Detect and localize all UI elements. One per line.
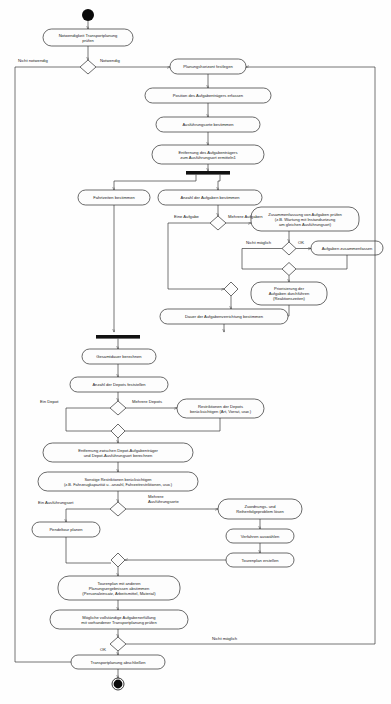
- merge-node-d4: [282, 263, 296, 276]
- join-bar-1: [96, 335, 140, 339]
- activity-node-a6: [78, 190, 150, 205]
- edge-d1-nicht-notwendig: [15, 67, 106, 662]
- edge-a9-to-d4: [296, 255, 347, 269]
- decision-node-d3: [282, 242, 296, 255]
- activity-node-a17: [32, 522, 100, 537]
- activity-node-a12: [82, 349, 156, 364]
- activity-node-a10: [251, 282, 327, 305]
- edge-d8-ein-ausfuehrungsort: [66, 509, 110, 522]
- decision-node-d10: [110, 637, 126, 651]
- merge-node-d7: [111, 424, 125, 438]
- initial-node: [82, 9, 94, 21]
- activity-node-a22: [50, 610, 188, 629]
- activity-node-a11: [160, 309, 288, 324]
- guard-nicht-notwendig: Nicht notwendig: [18, 58, 48, 63]
- activity-node-a4: [156, 117, 260, 132]
- edge-fork1-right: [218, 175, 220, 190]
- activity-node-a7: [158, 190, 262, 205]
- guard-mehrere-depots: Mehrere Depots: [132, 399, 162, 404]
- decision-node-d8: [110, 502, 126, 516]
- activity-node-a1: [43, 29, 133, 46]
- guard-nicht-moeglich-1: Nicht möglich: [246, 240, 271, 245]
- edge-d3-nicht-moeglich: [242, 249, 282, 270]
- decision-node-d2: [210, 216, 226, 230]
- activity-node-a15: [43, 443, 193, 462]
- activity-node-a13: [70, 377, 168, 392]
- activity-diagram-canvas: Notwendigkeit Transportplanung prüfen Pl…: [0, 0, 391, 704]
- final-node: [114, 680, 123, 689]
- activity-node-a3: [145, 88, 271, 103]
- guard-mehrere-ausfuehrungsorte: Mehrere Ausführungsorte: [148, 494, 179, 504]
- guard-ein-depot: Ein Depot: [40, 399, 58, 404]
- guard-ok-2: OK: [100, 647, 106, 652]
- edge-d6-ein-depot: [66, 408, 111, 431]
- activity-node-a8: [251, 207, 359, 231]
- activity-node-a19: [226, 529, 294, 543]
- guard-notwendig: Notwendig: [100, 58, 120, 63]
- activity-node-a16: [38, 472, 198, 491]
- activity-node-a20: [226, 553, 294, 567]
- edge-fork1-left: [114, 175, 196, 190]
- guard-eine-aufgabe: Eine Aufgabe: [174, 214, 199, 219]
- merge-node-d9: [111, 553, 125, 567]
- decision-node-d1: [80, 60, 96, 74]
- guard-mehrere-aufgaben: Mehrere Aufgaben: [228, 214, 262, 219]
- activity-node-a23: [71, 655, 165, 669]
- decision-node-d6: [110, 401, 126, 415]
- edge-a17-to-d9: [66, 537, 111, 563]
- activity-node-a5: [152, 145, 264, 164]
- activity-node-a21: [58, 576, 180, 600]
- diagram-svg: [0, 0, 391, 704]
- edge-d2-eine-aufgabe: [168, 223, 224, 289]
- activity-node-a18: [218, 499, 302, 519]
- guard-nicht-moeglich-2: Nicht möglich: [212, 636, 237, 641]
- activity-node-a14: [177, 399, 264, 418]
- activity-node-a9: [311, 241, 383, 255]
- edge-a14-to-d7: [125, 418, 220, 431]
- merge-node-d5: [224, 282, 238, 296]
- activity-node-a2: [170, 59, 246, 74]
- fork-bar-1: [186, 171, 230, 175]
- guard-ein-ausfuehrungsort: Ein Ausführungsort: [38, 500, 73, 505]
- guard-ok-1: OK: [298, 240, 304, 245]
